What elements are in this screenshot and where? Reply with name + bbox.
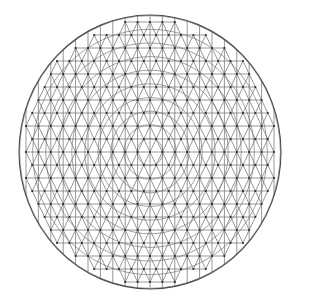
mesh-node (37, 125, 39, 127)
diagonal-edge (224, 113, 230, 126)
diagonal-edge (175, 100, 181, 113)
diagonal-edge (76, 152, 82, 165)
diagonal-edge (113, 204, 119, 217)
mesh-node (81, 190, 83, 192)
diagonal-edge (45, 191, 51, 204)
mesh-node (124, 281, 126, 283)
mesh-node (87, 151, 89, 153)
diagonal-edge (113, 217, 119, 230)
diagonal-edge (69, 113, 75, 126)
diagonal-edge (162, 126, 168, 139)
diagonal-edge (131, 165, 137, 178)
diagonal-edge (169, 22, 175, 35)
diagonal-edge (200, 100, 206, 113)
mesh-node (205, 34, 207, 36)
mesh-node (56, 190, 58, 192)
diagonal-edge (76, 204, 82, 217)
diagonal-edge (69, 61, 75, 74)
mesh-node (186, 47, 188, 49)
diagonal-edge (162, 113, 168, 126)
mesh-node (37, 177, 39, 179)
mesh-node (25, 125, 27, 127)
diagonal-edge (144, 48, 150, 61)
diagonal-edge (45, 165, 51, 178)
diagonal-edge (76, 217, 82, 230)
diagonal-edge (32, 100, 38, 113)
mesh-node (168, 60, 170, 62)
diagonal-edge (125, 269, 131, 282)
diagonal-edge (243, 126, 249, 139)
mesh-node (124, 203, 126, 205)
diagonal-edge (156, 113, 162, 126)
mesh-node (62, 73, 64, 75)
diagonal-edge (45, 74, 51, 87)
mesh-node (68, 60, 70, 62)
diagonal-edge (119, 100, 125, 113)
mesh-node (267, 112, 269, 114)
mesh-node (155, 60, 157, 62)
mesh-node (149, 99, 151, 101)
diagonal-edge (63, 126, 69, 139)
mesh-node (236, 203, 238, 205)
diagonal-edge (193, 204, 199, 217)
mesh-node (124, 177, 126, 179)
diagonal-edge (193, 35, 199, 48)
diagonal-edge (32, 113, 38, 126)
diagonal-edge (113, 87, 119, 100)
diagonal-edge (255, 165, 261, 178)
diagonal-edge (255, 126, 261, 139)
diagonal-edge (107, 191, 113, 204)
diagonal-edge (231, 126, 237, 139)
diagonal-edge (69, 243, 75, 256)
mesh-node (155, 216, 157, 218)
mesh-node (62, 125, 64, 127)
mesh-node (130, 138, 132, 140)
mesh-node (180, 190, 182, 192)
mesh-node (118, 34, 120, 36)
diagonal-edge (144, 74, 150, 87)
diagonal-edge (169, 87, 175, 100)
mesh-node (230, 190, 232, 192)
mesh-node (75, 177, 77, 179)
mesh-node (93, 112, 95, 114)
mesh-node (106, 242, 108, 244)
mesh-node (217, 242, 219, 244)
diagonal-edge (181, 139, 187, 152)
diagonal-edge (107, 48, 113, 61)
mesh-node (56, 138, 58, 140)
mesh-node (186, 255, 188, 257)
mesh-node (248, 151, 250, 153)
diagonal-edge (162, 152, 168, 165)
diagonal-edge (268, 126, 274, 139)
mesh-node (137, 151, 139, 153)
diagonal-edge (175, 243, 181, 256)
diagonal-edge (218, 191, 224, 204)
diagonal-edge (82, 191, 88, 204)
diagonal-edge (125, 74, 131, 87)
diagonal-edge (224, 217, 230, 230)
diagonal-edge (175, 35, 181, 48)
mesh-node (273, 151, 275, 153)
mesh-node (143, 138, 145, 140)
diagonal-edge (144, 256, 150, 269)
diagonal-edge (88, 74, 94, 87)
diagonal-edge (187, 126, 193, 139)
diagonal-edge (231, 191, 237, 204)
diagonal-edge (138, 48, 144, 61)
mesh-node (130, 86, 132, 88)
diagonal-edge (206, 113, 212, 126)
mesh-node (186, 125, 188, 127)
mesh-node (106, 86, 108, 88)
diagonal-edge (181, 178, 187, 191)
diagonal-edge (26, 113, 32, 126)
diagonal-edge (175, 48, 181, 61)
diagonal-edge (212, 61, 218, 74)
diagonal-edge (150, 178, 156, 191)
mesh-node (130, 216, 132, 218)
diagonal-edge (119, 48, 125, 61)
mesh-node (137, 99, 139, 101)
diagonal-edge (169, 74, 175, 87)
mesh-node (31, 190, 33, 192)
mesh-node (174, 21, 176, 23)
diagonal-edge (218, 126, 224, 139)
